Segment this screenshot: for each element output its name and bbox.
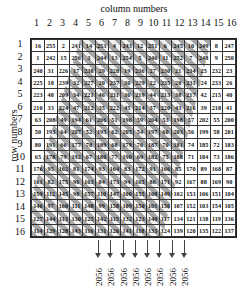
sum-value: 2056 [143,264,153,290]
grid-cell: 222 [108,101,121,113]
grid-cell: 150 [134,200,147,212]
sum-value: 2056 [155,264,165,290]
grid-cell: 164 [108,163,121,175]
grid-cell: 102 [172,187,185,199]
grid-cell: 181 [172,138,185,150]
grid-cell: 34 [70,89,83,101]
grid-cell: 183 [223,138,236,150]
grid-cell: 169 [210,175,223,187]
grid-cell: 99 [95,200,108,212]
row-number: 13 [12,188,28,201]
grid-cell: 76 [134,138,147,150]
grid-cell: 175 [57,175,70,187]
column-number: 16 [225,17,238,29]
grid-cell: 114 [32,224,45,236]
grid-cell: 6 [159,40,172,52]
sum-value: 2056 [131,264,141,290]
column-sums: 2056 2056 2056 2056 2056 2056 2056 2056 [94,240,190,300]
grid-cell: 66 [57,138,70,150]
grid-cell: 25 [197,64,210,76]
grid-cell: 252 [172,52,185,64]
grid-row: 2103322447212352224521437220432163921841 [32,101,236,113]
grid-cell: 157 [83,187,96,199]
grid-cell: 155 [134,187,147,199]
arrowhead-icon [120,253,126,258]
column-number: 12 [173,17,186,29]
grid-cell: 184 [197,150,210,162]
grid-row: 8019166177781896817976187701817418572183 [32,138,236,150]
grid-cell: 227 [83,76,96,88]
arrowhead-icon [156,253,162,258]
grid-cell: 45 [121,101,134,113]
row-number: 8 [12,126,28,139]
grid-row: 2403122617238292281923627230212342523223 [32,64,236,76]
grid-cell: 49 [57,113,70,125]
grid-cell: 165 [134,175,147,187]
column-number: 11 [160,17,173,29]
grid-cell: 38 [172,89,185,101]
grid-row: 6320849194612065119659204531985720255200 [32,113,236,125]
arrowhead-icon [169,253,175,258]
grid-cell: 4 [108,40,121,52]
grid-row: 1271441131301251421151321231401171341211… [32,212,236,224]
row-number: 1 [12,38,28,51]
grid-cell: 43 [172,101,185,113]
grid-cell: 230 [159,64,172,76]
grid-cell: 221 [83,89,96,101]
grid-cell: 241 [70,40,83,52]
grid-cell: 201 [223,126,236,138]
grid-cell: 166 [159,163,172,175]
grid-cell: 151 [210,187,223,199]
grid-cell: 139 [172,224,185,236]
grid-cell: 8 [210,40,223,52]
grid-cell: 84 [95,175,108,187]
grid-cell: 159 [32,187,45,199]
grid-cell: 87 [223,163,236,175]
grid-cell: 161 [32,175,45,187]
grid-cell: 249 [197,40,210,52]
grid-cell: 186 [223,150,236,162]
grid-cell: 251 [146,40,159,52]
grid-cell: 122 [210,224,223,236]
row-number: 7 [12,113,28,126]
grid-cell: 88 [197,175,210,187]
sum-value: 2056 [119,264,129,290]
grid-cell: 148 [83,200,96,212]
grid-cell: 170 [185,163,198,175]
column-number: 10 [147,17,160,29]
column-sum: 2056 [106,240,116,300]
grid-row: 2251823932227202373022922235282312423326 [32,76,236,88]
grid-cell: 52 [83,126,96,138]
grid-cell: 146 [32,200,45,212]
grid-cell: 130 [70,212,83,224]
grid-cell: 195 [95,126,108,138]
grid-cell: 90 [223,175,236,187]
grid-cell: 250 [223,52,236,64]
grid-cell: 219 [134,89,147,101]
grid-cell: 141 [121,224,134,236]
grid-cell: 133 [146,224,159,236]
grid-cell: 171 [159,175,172,187]
grid-cell: 37 [146,101,159,113]
grid-cell: 127 [32,212,45,224]
grid-cell: 117 [159,212,172,224]
grid-cell: 128 [57,224,70,236]
grid-cell: 162 [57,163,70,175]
column-number: 6 [95,17,108,29]
grid-cell: 205 [121,126,134,138]
grid-cell: 23 [223,64,236,76]
grid-cell: 55 [210,113,223,125]
grid-cell: 36 [121,89,134,101]
grid-cell: 224 [57,101,70,113]
sum-value: 2056 [180,264,190,290]
arrow-down-icon [98,240,99,254]
grid-cell: 240 [32,64,45,76]
grid-cell: 16 [32,40,45,52]
grid-cell: 75 [159,150,172,162]
grid-cell: 105 [223,200,236,212]
magic-square-grid: 1625522411425342431225162451024982471242… [30,38,237,238]
row-number: 2 [12,51,28,64]
column-sum: 2056 [168,240,178,300]
grid-cell: 79 [57,150,70,162]
grid-cell: 58 [210,126,223,138]
